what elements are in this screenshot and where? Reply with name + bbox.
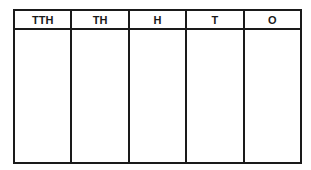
column-header: T [187, 11, 242, 30]
column-ten-thousands: TTH [15, 11, 72, 162]
column-header: TTH [15, 11, 70, 30]
column-ones: O [245, 11, 300, 162]
column-cell [187, 30, 242, 162]
column-hundreds: H [130, 11, 187, 162]
column-header: TH [72, 11, 127, 30]
column-thousands: TH [72, 11, 129, 162]
column-cell [15, 30, 70, 162]
column-cell [72, 30, 127, 162]
column-tens: T [187, 11, 244, 162]
column-header: O [245, 11, 300, 30]
column-cell [130, 30, 185, 162]
column-cell [245, 30, 300, 162]
column-header: H [130, 11, 185, 30]
place-value-chart: TTH TH H T O [13, 9, 302, 164]
